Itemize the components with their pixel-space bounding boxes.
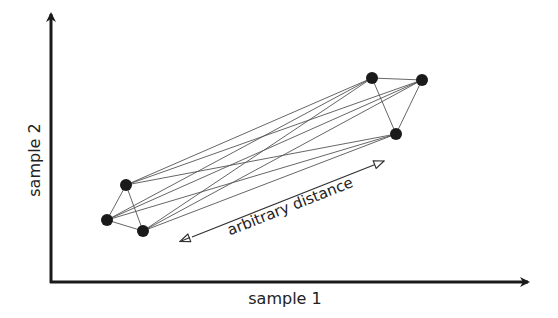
point [366,72,378,84]
distance-diagram: arbitrary distance sample 1 sample 2 [0,0,558,318]
point [120,179,132,191]
point [101,214,113,226]
annotation-label: arbitrary distance [225,173,356,239]
y-axis-label: sample 2 [25,123,44,196]
point [137,225,149,237]
x-axis-label: sample 1 [248,289,321,308]
point [390,128,402,140]
point [416,74,428,86]
